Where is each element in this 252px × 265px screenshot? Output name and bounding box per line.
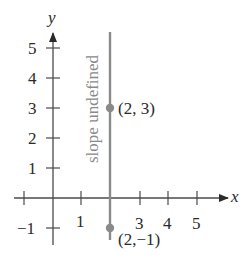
x-tick-label-4: 4 — [163, 214, 172, 233]
point-2-3 — [106, 104, 114, 112]
y-tick-label-2: 2 — [28, 129, 37, 148]
x-tick-label-5: 5 — [192, 214, 201, 233]
y-tick-label-neg1: −1 — [17, 219, 35, 238]
y-axis-label: y — [46, 8, 56, 27]
x-axis-label: x — [230, 187, 239, 206]
y-tick-label-3: 3 — [28, 99, 37, 118]
y-tick-label-4: 4 — [28, 69, 37, 88]
point-label-2-3: (2, 3) — [118, 99, 155, 118]
point-2-neg1 — [106, 224, 114, 232]
coordinate-plane: 5 4 3 2 1 −1 1 3 4 5 x y (2, 3) (2,−1) s… — [0, 0, 252, 265]
slope-annotation: slope undefined — [83, 54, 102, 163]
x-tick-label-1: 1 — [76, 212, 85, 231]
point-label-2-neg1: (2,−1) — [118, 230, 160, 249]
y-tick-label-1: 1 — [28, 159, 37, 178]
y-tick-label-5: 5 — [28, 39, 37, 58]
